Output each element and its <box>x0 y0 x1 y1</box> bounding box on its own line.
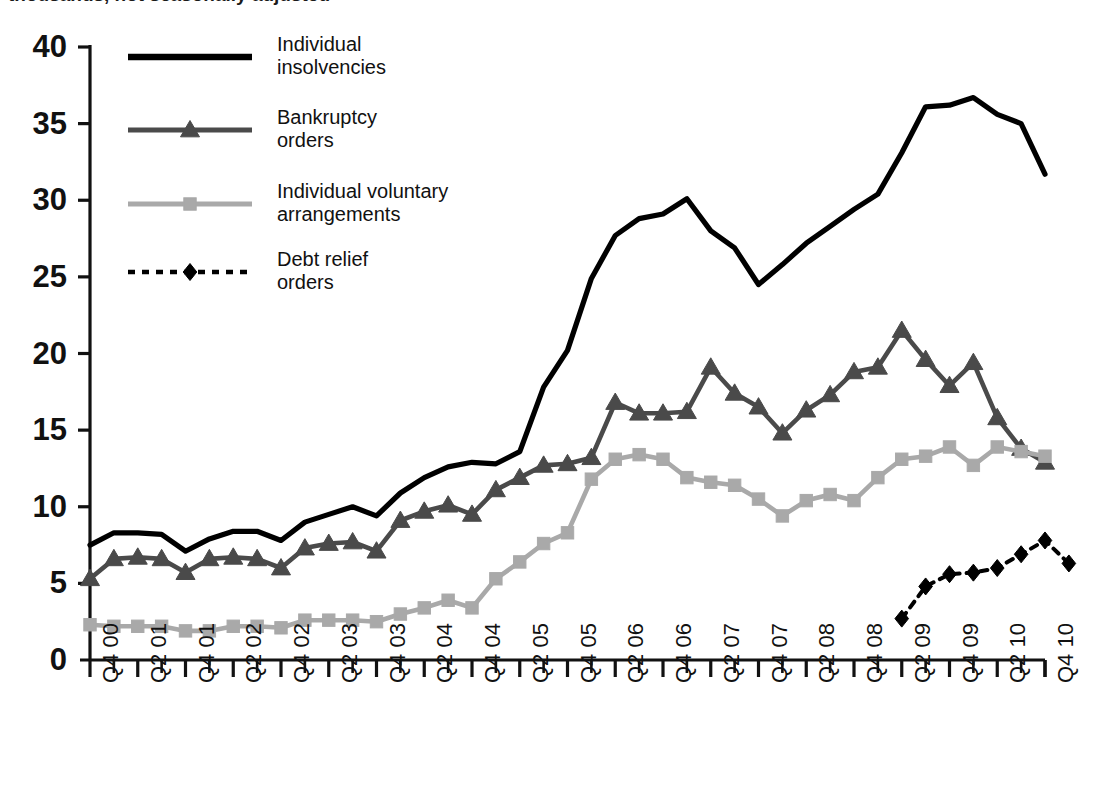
x-axis-tick-label: Q2 03 <box>337 623 363 683</box>
series-marker-square <box>466 602 478 614</box>
series-marker-square <box>275 622 287 634</box>
series-marker-square <box>919 450 931 462</box>
x-axis-tick-label: Q4 03 <box>385 623 411 683</box>
series-marker-triangle <box>439 496 458 512</box>
x-axis-tick-label: Q4 04 <box>480 623 506 683</box>
legend-label-line2: arrangements <box>277 203 448 226</box>
series-marker-square <box>1039 450 1051 462</box>
legend-label-debt_relief_orders[interactable]: Debt relieforders <box>277 248 368 294</box>
series-marker-square <box>609 453 621 465</box>
series-marker-diamond <box>967 564 981 581</box>
legend-label-line2: orders <box>277 129 377 152</box>
x-axis-tick-label: Q2 02 <box>241 623 267 683</box>
series-marker-square <box>394 608 406 620</box>
series-marker-square <box>132 620 144 632</box>
legend-swatch-bankruptcy_orders[interactable] <box>128 121 252 137</box>
series-marker-diamond <box>943 566 957 583</box>
series-marker-square <box>370 615 382 627</box>
legend-label-line1: Individual <box>277 33 386 56</box>
x-axis-tick-label: Q4 00 <box>98 623 124 683</box>
y-axis-tick-label: 5 <box>5 567 67 598</box>
series-marker-square <box>824 488 836 500</box>
x-axis-tick-label: Q4 09 <box>958 623 984 683</box>
series-marker-diamond <box>1038 532 1052 549</box>
series-marker-diamond <box>1014 546 1028 563</box>
x-axis-tick-label: Q4 01 <box>194 623 220 683</box>
series-marker-square <box>227 620 239 632</box>
y-axis-tick-label: 25 <box>5 261 67 292</box>
x-axis-tick-label: Q2 01 <box>146 623 172 683</box>
chart-root: thousands, not seasonally adjusted 05101… <box>0 0 1104 803</box>
series-marker-triangle <box>892 321 911 337</box>
legend-label-line1: Individual voluntary <box>277 180 448 203</box>
legend-swatch-ivas[interactable] <box>128 198 252 210</box>
series-marker-square <box>872 471 884 483</box>
legend-swatch-debt_relief_orders[interactable] <box>128 264 252 281</box>
legend-label-line1: Debt relief <box>277 248 368 271</box>
series-marker-square <box>179 625 191 637</box>
series-marker-triangle <box>797 401 816 417</box>
legend-label-line1: Bankruptcy <box>277 106 377 129</box>
series-marker-square <box>561 527 573 539</box>
series-marker-square <box>728 479 740 491</box>
x-axis-tick-label: Q4 07 <box>767 623 793 683</box>
series-marker-square <box>705 476 717 488</box>
legend-marks-layer <box>128 57 252 281</box>
series-marker-square <box>537 537 549 549</box>
x-axis-tick-label: Q2 07 <box>719 623 745 683</box>
legend-label-line2: insolvencies <box>277 56 386 79</box>
series-marker-square <box>776 510 788 522</box>
series-marker-triangle <box>582 448 601 464</box>
series-marker-square <box>490 573 502 585</box>
series-marker-diamond <box>990 560 1004 577</box>
series-marker-square <box>967 459 979 471</box>
x-axis-tick-label: Q2 10 <box>1005 623 1031 683</box>
x-axis-tick-label: Q2 06 <box>623 623 649 683</box>
x-axis-tick-label: Q2 05 <box>528 623 554 683</box>
y-axis-tick-label: 10 <box>5 491 67 522</box>
series-marker-square <box>418 602 430 614</box>
series-marker-square <box>896 453 908 465</box>
legend-label-line2: orders <box>277 271 368 294</box>
series-marker-square <box>514 556 526 568</box>
series-marker-triangle <box>701 358 720 374</box>
series-marker-square <box>800 494 812 506</box>
series-marker-square <box>585 473 597 485</box>
legend-label-individual_insolvencies[interactable]: Individualinsolvencies <box>277 33 386 79</box>
x-axis-tick-label: Q2 09 <box>910 623 936 683</box>
series-marker-square <box>752 493 764 505</box>
series-marker-square <box>943 441 955 453</box>
legend-label-ivas[interactable]: Individual voluntaryarrangements <box>277 180 448 226</box>
legend-label-bankruptcy_orders[interactable]: Bankruptcyorders <box>277 106 377 152</box>
x-axis-tick-label: Q4 08 <box>862 623 888 683</box>
x-axis-tick-label: Q2 08 <box>814 623 840 683</box>
series-marker-square <box>633 448 645 460</box>
series-marker-square <box>657 453 669 465</box>
series-marker-square <box>84 619 96 631</box>
x-axis-tick-label: Q4 02 <box>289 623 315 683</box>
y-axis-tick-label: 0 <box>5 644 67 675</box>
x-axis-tick-label: Q4 05 <box>576 623 602 683</box>
series-marker-square <box>848 494 860 506</box>
series-marker-square <box>184 198 196 210</box>
series-marker-square <box>1015 445 1027 457</box>
series-marker-triangle <box>606 393 625 409</box>
series-marker-diamond <box>183 264 197 281</box>
series-debt-relief-orders <box>895 532 1076 627</box>
x-axis-tick-label: Q4 10 <box>1053 623 1079 683</box>
y-axis-tick-label: 40 <box>5 31 67 62</box>
y-axis-tick-label: 20 <box>5 338 67 369</box>
series-marker-square <box>681 471 693 483</box>
y-axis-tick-label: 15 <box>5 414 67 445</box>
series-marker-square <box>323 614 335 626</box>
series-marker-square <box>442 594 454 606</box>
x-axis-tick-label: Q2 04 <box>432 623 458 683</box>
y-axis-tick-label: 35 <box>5 108 67 139</box>
x-axis-tick-label: Q4 06 <box>671 623 697 683</box>
y-axis-tick-label: 30 <box>5 184 67 215</box>
series-marker-triangle <box>988 408 1007 424</box>
series-layer <box>81 98 1076 637</box>
series-marker-square <box>991 441 1003 453</box>
series-marker-triangle <box>964 353 983 369</box>
